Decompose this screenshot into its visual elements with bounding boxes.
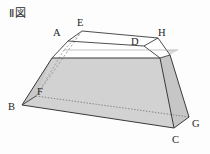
figure-container: Ⅱ図 [0,0,210,154]
vertex-label-B: B [8,102,15,113]
vertex-label-C: C [172,135,179,146]
solid-figure-diagram [0,0,210,154]
vertex-label-F: F [37,87,43,98]
vertex-label-E: E [77,18,83,29]
vertex-label-G: G [192,119,200,130]
vertex-label-H: H [158,28,166,39]
vertex-label-A: A [53,28,61,39]
vertex-label-D: D [131,37,139,48]
